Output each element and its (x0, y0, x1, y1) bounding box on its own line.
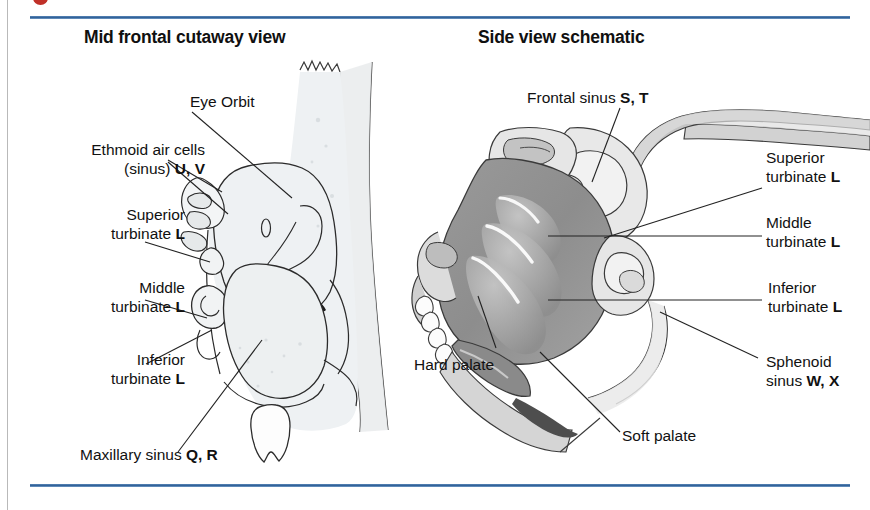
label-middle-right-code: L (831, 233, 840, 250)
label-eye-orbit: Eye Orbit (190, 92, 255, 111)
label-superior-left-line1: Superior (0, 205, 185, 224)
label-soft-palate: Soft palate (622, 426, 696, 445)
label-middle-left-code: L (176, 298, 185, 315)
leader-hard-palate (478, 296, 496, 348)
leader-superior-turbinate-r (604, 188, 762, 238)
label-superior-right-line1: Superior (766, 148, 840, 167)
leader-maxillary-sinus (178, 340, 262, 452)
label-middle-left-line1: Middle (0, 278, 185, 297)
label-middle-left-text: turbinate (111, 298, 176, 315)
label-middle-right-line2: turbinate L (766, 232, 840, 251)
bottom-divider-rule (30, 484, 850, 487)
label-inferior-left-text: turbinate (111, 370, 176, 387)
label-inferior-right-text: turbinate (768, 298, 833, 315)
label-middle-turbinate-right: Middle turbinate L (766, 213, 840, 251)
label-superior-left-line2: turbinate L (0, 224, 185, 243)
label-ethmoid-air-cells: Ethmoid air cells (sinus) U, V (0, 140, 205, 178)
label-inferior-right-code: L (833, 298, 842, 315)
label-inferior-left-code: L (176, 370, 185, 387)
label-middle-left-line2: turbinate L (0, 297, 185, 316)
left-illustration (181, 61, 388, 462)
label-superior-right-code: L (831, 168, 840, 185)
label-frontal-code: S, T (620, 89, 648, 106)
left-panel-title: Mid frontal cutaway view (84, 27, 285, 48)
label-maxillary-sinus: Maxillary sinus Q, R (80, 445, 218, 464)
label-inferior-right-line1: Inferior (768, 278, 842, 297)
label-inferior-left-line1: Inferior (0, 350, 185, 369)
anatomy-artwork (0, 0, 870, 510)
label-superior-left-text: turbinate (111, 225, 176, 242)
label-inferior-left-line2: turbinate L (0, 369, 185, 388)
left-margin-line (7, 0, 8, 510)
leader-superior-turbinate (145, 242, 210, 262)
label-ethmoid-code: U, V (175, 160, 205, 177)
label-maxillary-code: Q, R (186, 446, 218, 463)
leader-sphenoid-sinus (660, 312, 758, 358)
label-sphenoid-line1: Sphenoid (766, 352, 839, 371)
label-maxillary-text: Maxillary sinus (80, 446, 186, 463)
label-frontal-text: Frontal sinus (527, 89, 620, 106)
label-inferior-turbinate-left: Inferior turbinate L (0, 350, 185, 388)
label-superior-turbinate-right: Superior turbinate L (766, 148, 840, 186)
label-ethmoid-text: (sinus) (124, 160, 175, 177)
right-panel-title: Side view schematic (478, 27, 644, 48)
label-superior-turbinate-left: Superior turbinate L (0, 205, 185, 243)
page-marker-dot (33, 0, 48, 5)
label-superior-right-line2: turbinate L (766, 167, 840, 186)
label-inferior-turbinate-right: Inferior turbinate L (768, 278, 842, 316)
label-inferior-right-line2: turbinate L (768, 297, 842, 316)
label-sphenoid-text: sinus (766, 372, 807, 389)
label-superior-right-text: turbinate (766, 168, 831, 185)
label-sphenoid-code: W, X (807, 372, 840, 389)
label-ethmoid-line2: (sinus) U, V (0, 159, 205, 178)
leader-eye-orbit (192, 112, 292, 198)
label-hard-palate: Hard palate (414, 355, 494, 374)
label-middle-right-line1: Middle (766, 213, 840, 232)
label-sphenoid-line2: sinus W, X (766, 371, 839, 390)
top-divider-rule (30, 16, 850, 19)
label-middle-turbinate-left: Middle turbinate L (0, 278, 185, 316)
right-leader-lines (478, 108, 762, 432)
leader-frontal-sinus (592, 108, 620, 182)
label-superior-left-code: L (176, 225, 185, 242)
leader-soft-palate (540, 352, 620, 432)
figure-canvas: Mid frontal cutaway view Side view schem… (0, 0, 870, 510)
label-sphenoid-sinus: Sphenoid sinus W, X (766, 352, 839, 390)
label-frontal-sinus: Frontal sinus S, T (527, 88, 648, 107)
label-middle-right-text: turbinate (766, 233, 831, 250)
label-ethmoid-line1: Ethmoid air cells (0, 140, 205, 159)
